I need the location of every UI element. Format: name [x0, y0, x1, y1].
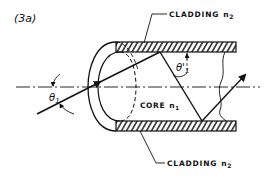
fiber-break-line: [219, 52, 226, 121]
bottom-cladding-label: CLADDINGn2: [167, 159, 232, 169]
incident-angle-label: θ1: [49, 92, 60, 105]
bottom-cladding-leader: [140, 131, 165, 163]
fiber-end-face: [88, 42, 138, 131]
top-cladding: [116, 42, 236, 52]
core-label: COREn1: [140, 101, 180, 111]
top-cladding-label: CLADDINGn2: [169, 10, 234, 20]
incident-angle-arc-lower: [60, 104, 74, 114]
reflected-ray-3: [202, 75, 245, 121]
figure-label: (3a): [14, 12, 36, 25]
top-cladding-leader: [144, 14, 167, 43]
incident-angle-arc-upper: [53, 74, 60, 86]
optical-fiber-diagram: (3a) θ1 θ'1 COREn1 CL: [0, 0, 276, 183]
bottom-cladding: [116, 121, 236, 131]
